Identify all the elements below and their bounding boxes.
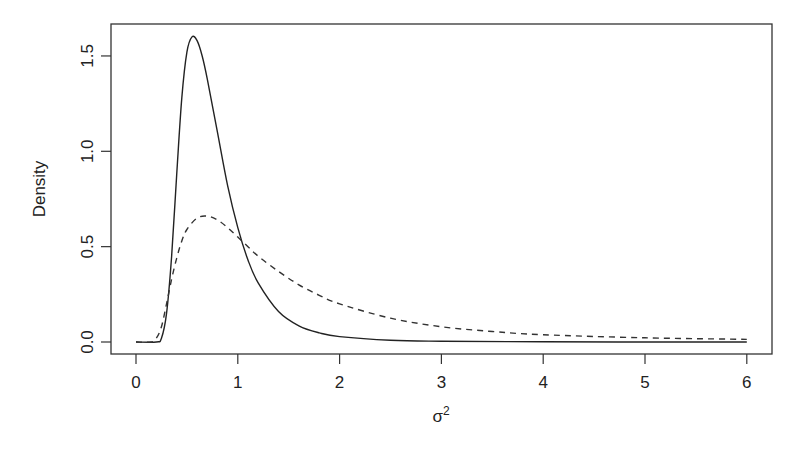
x-tick-label: 5 [640,373,649,392]
x-tick-label: 4 [538,373,547,392]
density-chart: 0.00.51.01.5 0123456 Density σ2 [0,0,798,451]
y-tick-label: 0.5 [78,235,97,259]
x-tick-label: 2 [335,373,344,392]
x-tick-label: 6 [742,373,751,392]
x-axis-title: σ2 [432,404,450,426]
x-tick-label: 1 [233,373,242,392]
y-axis-title: Density [30,160,49,217]
y-axis: 0.00.51.01.5 [78,44,111,354]
y-tick-label: 1.0 [78,139,97,163]
x-axis-title-superscript: 2 [443,404,450,418]
x-axis-title-base: σ [432,407,443,426]
plot-frame [111,24,772,354]
x-tick-label: 0 [131,373,140,392]
y-tick-label: 1.5 [78,44,97,68]
x-tick-label: 3 [437,373,446,392]
series-layer [136,36,747,342]
x-axis: 0123456 [131,354,751,392]
series-solid-line [136,36,747,342]
y-tick-label: 0.0 [78,330,97,354]
series-dashed-line [136,216,747,342]
